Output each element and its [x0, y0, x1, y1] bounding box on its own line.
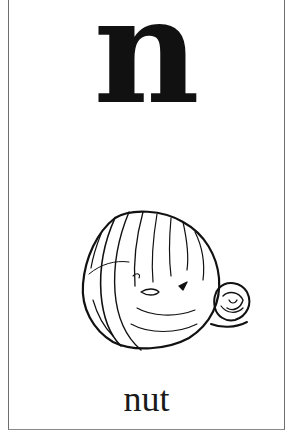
flashcard: n nut — [8, 0, 285, 430]
flashcard-word: nut — [9, 381, 284, 417]
nut-drawing-icon — [71, 204, 251, 354]
flashcard-letter: n — [9, 0, 284, 124]
